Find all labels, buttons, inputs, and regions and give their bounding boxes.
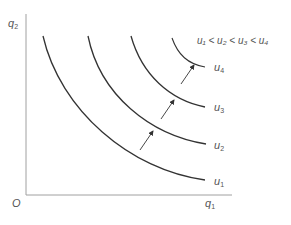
arrow-icon	[161, 100, 174, 119]
indifference-curves-diagram: q2 O q1 u1 u2 u3 u4 u₁ < u₂ < u₃ < u₄	[0, 0, 291, 225]
indifference-curve-u3	[131, 36, 205, 107]
y-axis-label: q2	[8, 17, 18, 30]
curve-label-u4: u4	[214, 61, 224, 74]
arrow-icon	[140, 131, 153, 150]
curve-label-u2: u2	[214, 139, 224, 152]
x-axis-label: q1	[205, 197, 215, 210]
indifference-curve-u1	[43, 36, 205, 180]
curve-label-u3: u3	[214, 101, 224, 114]
origin-label: O	[12, 197, 21, 209]
indifference-curve-u2	[88, 36, 206, 144]
arrow-icon	[181, 65, 194, 84]
curve-label-u1: u1	[214, 175, 224, 188]
utility-ordering-label: u₁ < u₂ < u₃ < u₄	[197, 35, 268, 46]
